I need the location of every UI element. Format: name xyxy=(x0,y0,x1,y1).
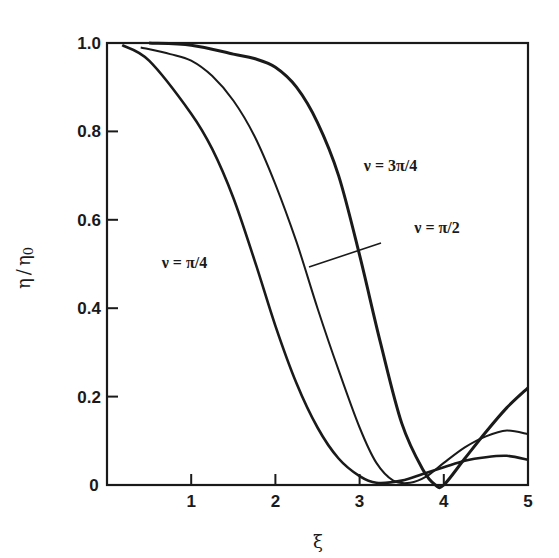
x-axis-ticks: 012345 xyxy=(89,474,532,511)
x-tick-label: 5 xyxy=(523,492,532,511)
y-tick-label: 0.8 xyxy=(77,122,101,141)
x-tick-label: 1 xyxy=(186,492,195,511)
svg-text:η/η0: η/η0 xyxy=(13,247,36,289)
y-tick-label: 0.4 xyxy=(77,299,101,318)
line-chart: 012345 0.20.40.60.81.0 ν = 3π/4ν = π/2ν … xyxy=(0,0,559,558)
y-axis-ticks: 0.20.40.60.81.0 xyxy=(77,34,118,407)
y-tick-label: 0.2 xyxy=(77,388,101,407)
annotation-leader-line xyxy=(309,243,381,267)
y-tick-label: 1.0 xyxy=(77,34,101,53)
curve-label-1: ν = π/2 xyxy=(413,219,459,236)
curve-annotations: ν = 3π/4ν = π/2ν = π/4 xyxy=(161,157,460,271)
curve-label-2: ν = π/4 xyxy=(161,254,207,271)
curve-label-0: ν = 3π/4 xyxy=(363,157,417,174)
x-tick-label: 3 xyxy=(355,492,364,511)
y-axis-title: η/η0 xyxy=(13,247,36,289)
x-axis-title: ξ xyxy=(313,531,323,552)
y-tick-label: 0.6 xyxy=(77,211,101,230)
x-tick-label: 2 xyxy=(271,492,280,511)
x-tick-label: 0 xyxy=(89,476,98,495)
x-tick-label: 4 xyxy=(439,492,449,511)
